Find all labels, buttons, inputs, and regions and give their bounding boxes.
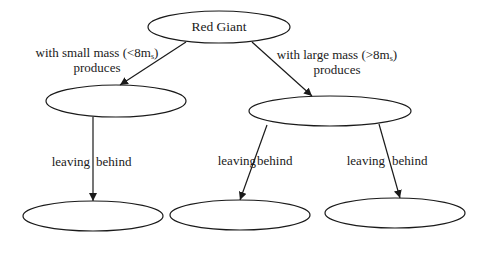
red-giant-label: Red Giant (169, 19, 269, 35)
edge-label-large2-behind: behind (392, 153, 427, 168)
edge-label-large-mass-line1: with large mass (>8ms) (277, 47, 397, 62)
node-small-mass-product (46, 85, 186, 117)
diagram-canvas: Red Giant with small mass (<8ms) produce… (0, 0, 488, 253)
edge-label-large2-leaving: leaving (340, 153, 385, 168)
diagram-shapes (0, 0, 488, 253)
edge-label-small-mass-line2: produces (74, 60, 121, 75)
edge-label-small-leaving: leaving (50, 154, 90, 169)
edge-label-large1-leaving: leaving (211, 153, 256, 168)
edge-label-small-mass-line1: with small mass (<8ms) (36, 45, 159, 60)
edge-label-small-behind: behind (96, 154, 131, 169)
edge-label-large1-behind: behind (257, 153, 292, 168)
node-large-mass-product (249, 96, 411, 126)
node-large-remnant-1 (170, 200, 310, 230)
edge-label-large-mass-line2: produces (314, 62, 361, 77)
edge-label-small-mass: with small mass (<8ms) produces (22, 45, 172, 75)
node-large-remnant-2 (325, 198, 465, 228)
edge-label-large-mass: with large mass (>8ms) produces (262, 47, 412, 77)
node-small-remnant (23, 201, 163, 231)
